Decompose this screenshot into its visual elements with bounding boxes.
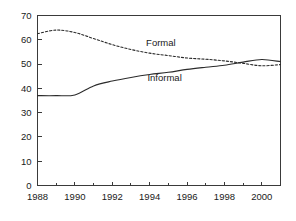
x-axis-group: 1988199019921994199619982000: [27, 182, 281, 202]
y-tick-label-40: 40: [21, 83, 32, 94]
y-tick-group: [38, 16, 42, 186]
x-tick-label-1990: 1990: [64, 191, 85, 202]
x-tick-label-group: 1988199019921994199619982000: [27, 191, 272, 202]
x-tick-label-2000: 2000: [251, 191, 272, 202]
series-line-formal: [38, 30, 281, 66]
x-tick-label-1992: 1992: [102, 191, 123, 202]
series-label-informal: Informal: [147, 72, 181, 83]
y-tick-label-50: 50: [21, 58, 32, 69]
series-annotation-group: FormalInformal: [146, 37, 182, 83]
x-tick-label-1988: 1988: [27, 191, 48, 202]
x-tick-label-1998: 1998: [214, 191, 235, 202]
y-tick-label-30: 30: [21, 107, 32, 118]
y-tick-label-0: 0: [26, 180, 31, 191]
y-tick-label-group: 010203040506070: [21, 10, 32, 191]
line-chart-canvas: 010203040506070 198819901992199419961998…: [0, 0, 296, 221]
y-tick-label-60: 60: [21, 34, 32, 45]
x-major-tick-group: [38, 182, 262, 186]
x-tick-label-1994: 1994: [139, 191, 160, 202]
y-tick-label-70: 70: [21, 10, 32, 21]
x-tick-label-1996: 1996: [176, 191, 197, 202]
y-tick-label-10: 10: [21, 156, 32, 167]
series-label-formal: Formal: [146, 37, 176, 48]
y-axis-group: 010203040506070: [21, 10, 42, 191]
chart-figure: 010203040506070 198819901992199419961998…: [0, 0, 296, 221]
y-tick-label-20: 20: [21, 131, 32, 142]
